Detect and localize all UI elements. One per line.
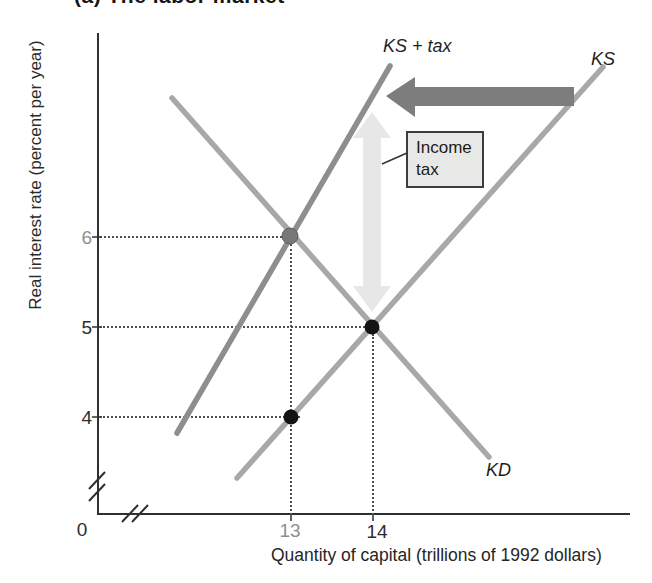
y-tick-6: 6 [68, 227, 92, 249]
capital-market-figure: (a) The labor market Real interest rate … [0, 0, 652, 583]
x-axis-label: Quantity of capital (trillions of 1992 d… [271, 545, 602, 566]
pre-tax-equilibrium-dot [365, 320, 380, 335]
income-tax-annotation-box: Income tax [406, 131, 484, 188]
income-tax-callout-line [382, 153, 407, 164]
x-tick-14: 14 [362, 521, 392, 543]
leftward-shift-arrow [386, 77, 574, 117]
y-tick-5: 5 [68, 317, 92, 339]
with-tax-equilibrium-dot [282, 228, 298, 244]
kd-label: KD [486, 460, 511, 481]
ks-plus-tax-curve [177, 66, 390, 433]
ks-plus-tax-label: KS + tax [383, 36, 452, 57]
ks-label: KS [591, 49, 615, 70]
plot-canvas [0, 0, 652, 583]
origin-label: 0 [67, 519, 97, 541]
x-tick-13: 13 [275, 520, 305, 542]
tax-wedge-double-arrow [353, 112, 391, 312]
y-tick-4: 4 [68, 407, 92, 429]
after-tax-return-dot [284, 410, 299, 425]
